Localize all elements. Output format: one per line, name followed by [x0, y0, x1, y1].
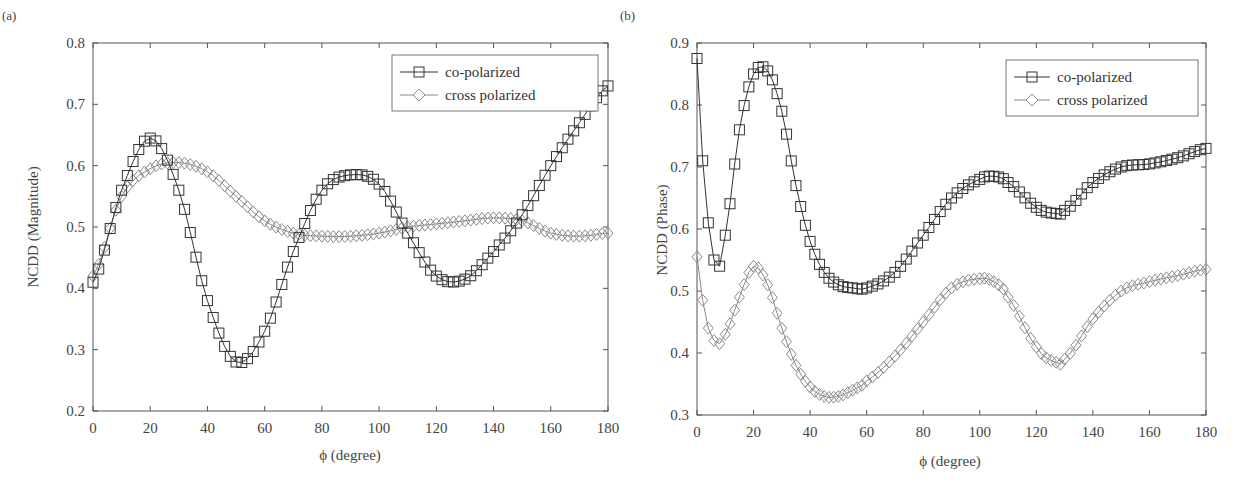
panel-label-a: (a) [2, 8, 16, 23]
x-tick-label: 160 [1138, 424, 1161, 440]
y-tick-label: 0.9 [670, 35, 689, 51]
y-tick-label: 0.6 [670, 221, 689, 237]
legend-a: co-polarized cross polarized [392, 55, 598, 111]
x-tick-label: 40 [200, 420, 215, 436]
x-tick-label: 100 [368, 420, 391, 436]
x-tick-label: 80 [916, 424, 931, 440]
y-axis-label-b: NCDD (Phase) [654, 184, 671, 275]
x-tick-label: 20 [143, 420, 158, 436]
x-tick-label: 20 [746, 424, 761, 440]
y-tick-label: 0.4 [66, 280, 85, 296]
y-axis-label-a: NCDD (Magnitude) [25, 166, 42, 287]
y-tick-label: 0.5 [670, 283, 689, 299]
y-tick-label: 0.7 [670, 159, 689, 175]
chart-panel-b: (b) 0204060801001201401601800.30.40.50.6… [620, 8, 1217, 470]
panel-label-b: (b) [620, 8, 635, 23]
x-tick-label: 140 [482, 420, 505, 436]
x-tick-label: 100 [969, 424, 992, 440]
x-axis-label-a: ϕ (degree) [319, 447, 381, 464]
x-tick-label: 0 [89, 420, 97, 436]
data-series-a [88, 81, 613, 368]
legend-label-co: co-polarized [445, 64, 520, 80]
y-tick-label: 0.5 [66, 219, 85, 235]
legend-label-co: co-polarized [1057, 69, 1132, 85]
legend-label-cross: cross polarized [1057, 92, 1148, 108]
y-tick-label: 0.7 [66, 96, 85, 112]
legend-label-cross: cross polarized [445, 87, 536, 103]
legend-b: co-polarized cross polarized [1006, 60, 1198, 116]
y-tick-label: 0.3 [66, 342, 85, 358]
x-tick-label: 80 [314, 420, 329, 436]
x-tick-label: 60 [257, 420, 272, 436]
x-tick-label: 160 [540, 420, 563, 436]
y-tick-label: 0.8 [66, 35, 85, 51]
x-tick-label: 120 [425, 420, 448, 436]
x-tick-label: 180 [597, 420, 620, 436]
x-tick-label: 40 [803, 424, 818, 440]
x-axis-label-b: ϕ (degree) [919, 453, 981, 470]
y-tick-label: 0.6 [66, 158, 85, 174]
x-tick-label: 180 [1195, 424, 1218, 440]
y-tick-label: 0.2 [66, 403, 85, 419]
x-tick-label: 120 [1025, 424, 1048, 440]
figure-canvas: (a) 0204060801001201401601800.20.30.40.5… [0, 0, 1242, 498]
x-tick-label: 0 [693, 424, 701, 440]
x-tick-label: 140 [1082, 424, 1105, 440]
y-tick-label: 0.3 [670, 407, 689, 423]
y-tick-label: 0.8 [670, 97, 689, 113]
x-tick-label: 60 [859, 424, 874, 440]
chart-panel-a: (a) 0204060801001201401601800.20.30.40.5… [2, 8, 619, 464]
y-tick-label: 0.4 [670, 345, 689, 361]
